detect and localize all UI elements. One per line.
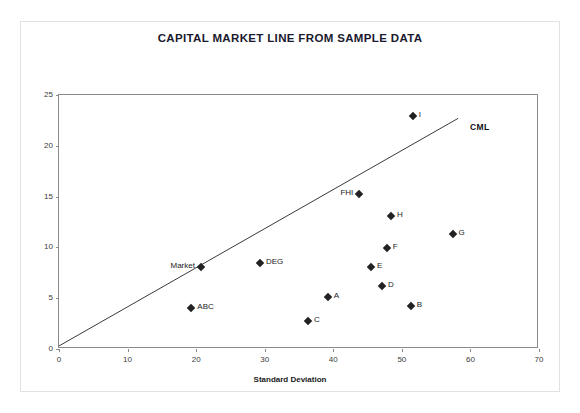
y-tick-mark	[56, 146, 59, 147]
data-point-label: C	[314, 315, 320, 324]
data-point-label: H	[397, 210, 403, 219]
data-point-label: I	[419, 110, 421, 119]
x-tick-mark	[333, 349, 334, 352]
data-point-label: A	[334, 291, 339, 300]
x-tick-label: 60	[457, 355, 483, 364]
data-point-label: D	[388, 280, 394, 289]
x-tick-mark	[470, 349, 471, 352]
data-point-label: FHI	[340, 188, 353, 197]
x-tick-mark	[128, 349, 129, 352]
x-tick-mark	[59, 349, 60, 352]
y-tick-label: 10	[27, 242, 53, 251]
y-tick-label: 25	[27, 90, 53, 99]
x-tick-label: 50	[389, 355, 415, 364]
data-point-label: G	[459, 228, 465, 237]
cml-line	[59, 118, 458, 346]
data-point-label: B	[417, 300, 422, 309]
data-point-label: ABC	[197, 302, 213, 311]
x-tick-label: 0	[46, 355, 72, 364]
x-tick-label: 30	[252, 355, 278, 364]
y-tick-label: 15	[27, 192, 53, 201]
data-point-label: F	[393, 242, 398, 251]
y-tick-mark	[56, 197, 59, 198]
data-point-label: DEG	[266, 257, 283, 266]
y-tick-mark	[56, 95, 59, 96]
data-point-label: E	[377, 261, 382, 270]
x-tick-label: 40	[320, 355, 346, 364]
x-axis-title: Standard Deviation	[0, 375, 580, 384]
x-tick-label: 70	[526, 355, 552, 364]
x-tick-mark	[196, 349, 197, 352]
x-tick-label: 10	[115, 355, 141, 364]
y-tick-label: 5	[27, 293, 53, 302]
chart-page: CAPITAL MARKET LINE FROM SAMPLE DATA Ave…	[0, 0, 580, 413]
y-tick-mark	[56, 298, 59, 299]
y-tick-label: 20	[27, 141, 53, 150]
plot-area: 0510152025010203040506070 MarketABCDEGCA…	[58, 94, 538, 348]
y-tick-mark	[56, 247, 59, 248]
plot-svg	[59, 95, 539, 349]
cml-series-label: CML	[470, 122, 489, 132]
data-point-label: Market	[170, 261, 194, 270]
chart-title: CAPITAL MARKET LINE FROM SAMPLE DATA	[0, 32, 580, 44]
y-tick-label: 0	[27, 344, 53, 353]
x-tick-label: 20	[183, 355, 209, 364]
x-tick-mark	[265, 349, 266, 352]
x-tick-mark	[539, 349, 540, 352]
x-tick-mark	[402, 349, 403, 352]
